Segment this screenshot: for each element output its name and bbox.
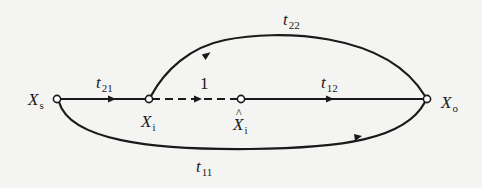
- label-xi-hat: Xi: [233, 116, 247, 136]
- label-xs: Xs: [28, 91, 44, 111]
- graph-edges: [0, 0, 482, 188]
- label-xo: Xo: [441, 94, 458, 114]
- label-xi: Xi: [141, 113, 155, 133]
- label-t11-base: t: [196, 157, 201, 176]
- node-xs: [53, 95, 60, 102]
- arrow-t22-icon: [202, 52, 212, 60]
- label-t22: t22: [283, 11, 300, 31]
- label-xs-base: X: [28, 90, 38, 109]
- label-t21-sub: 21: [102, 82, 113, 94]
- label-t22-sub: 22: [289, 19, 300, 31]
- signal-flow-graph: Xs Xi Xi Xo t21 1 t12 t22 t11: [0, 0, 482, 188]
- label-xi-hat-base: X: [233, 116, 243, 133]
- edge-t22: [151, 35, 425, 96]
- arrow-t12-icon: [326, 96, 334, 103]
- label-xi-sub: i: [152, 121, 155, 133]
- label-xi-base: X: [141, 112, 151, 131]
- label-unity-text: 1: [200, 74, 209, 93]
- label-t11-sub: 11: [202, 166, 213, 178]
- node-xo: [423, 95, 430, 102]
- label-xo-sub: o: [452, 102, 458, 114]
- label-t12: t12: [321, 74, 338, 94]
- label-t12-sub: 12: [327, 82, 338, 94]
- label-xo-base: X: [441, 93, 451, 112]
- label-t22-base: t: [283, 10, 288, 29]
- node-xi-hat: [237, 95, 244, 102]
- label-t21-base: t: [96, 73, 101, 92]
- label-xi-hat-sub: i: [244, 124, 247, 136]
- label-t12-base: t: [321, 73, 326, 92]
- label-t11: t11: [196, 158, 212, 178]
- label-t21: t21: [96, 74, 113, 94]
- node-xi: [145, 95, 152, 102]
- label-xs-sub: s: [39, 99, 43, 111]
- arrow-t21-icon: [108, 96, 116, 103]
- arrow-unity-icon: [194, 96, 202, 103]
- label-unity: 1: [200, 75, 209, 92]
